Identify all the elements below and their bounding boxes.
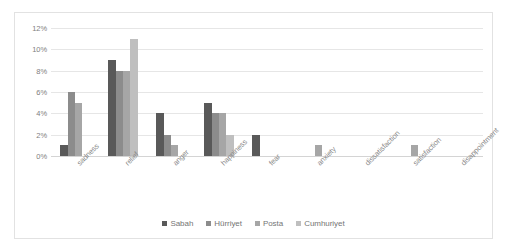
- legend-item-label: Cumhuriyet: [304, 219, 344, 228]
- bar-slot: [219, 28, 226, 156]
- bar[interactable]: [75, 103, 82, 156]
- bar-slot: [452, 28, 459, 156]
- bar-group: [252, 28, 282, 156]
- bar-slot: [178, 28, 185, 156]
- bar-slot: [75, 28, 82, 156]
- bar-slot: [260, 28, 267, 156]
- bar[interactable]: [212, 113, 219, 156]
- y-axis-tick-label: 6%: [36, 88, 47, 97]
- bar-slot: [212, 28, 219, 156]
- bar[interactable]: [219, 113, 226, 156]
- y-axis-tick-label: 12%: [32, 24, 47, 33]
- legend-item-label: Hürriyet: [214, 219, 242, 228]
- bar-group: [396, 28, 426, 156]
- legend-swatch-icon: [206, 221, 211, 226]
- bar-slot: [108, 28, 115, 156]
- bar-slot: [418, 28, 425, 156]
- y-axis-tick-label: 4%: [36, 109, 47, 118]
- chart-container: 0%2%4%6%8%10%12% sadnessreliefangerhappi…: [14, 12, 493, 239]
- bar-slot: [171, 28, 178, 156]
- bars-layer: [51, 28, 483, 156]
- bar[interactable]: [60, 145, 67, 156]
- bar-slot: [164, 28, 171, 156]
- y-axis-tick-label: 0%: [36, 152, 47, 161]
- bar[interactable]: [130, 39, 137, 156]
- bar-slot: [60, 28, 67, 156]
- bar-slot: [444, 28, 451, 156]
- bar-slot: [315, 28, 322, 156]
- bar-slot: [322, 28, 329, 156]
- bar[interactable]: [164, 135, 171, 156]
- legend-item-label: Sabah: [170, 219, 193, 228]
- bar[interactable]: [123, 71, 130, 156]
- bar-slot: [404, 28, 411, 156]
- bar[interactable]: [252, 135, 259, 156]
- bar-slot: [116, 28, 123, 156]
- bar-slot: [226, 28, 233, 156]
- bar-group: [204, 28, 234, 156]
- bar-slot: [308, 28, 315, 156]
- bar-slot: [130, 28, 137, 156]
- legend-item[interactable]: Sabah: [162, 219, 193, 228]
- bar-group: [156, 28, 186, 156]
- bar-slot: [274, 28, 281, 156]
- legend-item[interactable]: Posta: [255, 219, 283, 228]
- bar-slot: [204, 28, 211, 156]
- bar-slot: [348, 28, 355, 156]
- plot-area: 0%2%4%6%8%10%12%: [51, 28, 483, 156]
- bar-slot: [411, 28, 418, 156]
- chart-legend: SabahHürriyetPostaCumhuriyet: [15, 219, 492, 228]
- bar-slot: [459, 28, 466, 156]
- legend-item[interactable]: Hürriyet: [206, 219, 242, 228]
- bar-slot: [267, 28, 274, 156]
- bar-slot: [300, 28, 307, 156]
- legend-item-label: Posta: [263, 219, 283, 228]
- bar[interactable]: [116, 71, 123, 156]
- y-axis-tick-label: 8%: [36, 66, 47, 75]
- legend-swatch-icon: [296, 221, 301, 226]
- bar-slot: [252, 28, 259, 156]
- bar-group: [444, 28, 474, 156]
- y-axis-tick-label: 2%: [36, 130, 47, 139]
- y-axis-tick-label: 10%: [32, 45, 47, 54]
- bar[interactable]: [204, 103, 211, 156]
- bar-slot: [466, 28, 473, 156]
- bar-slot: [68, 28, 75, 156]
- bar-slot: [156, 28, 163, 156]
- bar-group: [348, 28, 378, 156]
- legend-item[interactable]: Cumhuriyet: [296, 219, 344, 228]
- bar-slot: [363, 28, 370, 156]
- bar-slot: [370, 28, 377, 156]
- bar[interactable]: [156, 113, 163, 156]
- bar-slot: [82, 28, 89, 156]
- bar-group: [108, 28, 138, 156]
- legend-swatch-icon: [162, 221, 167, 226]
- bar-group: [300, 28, 330, 156]
- x-axis-labels: sadnessreliefangerhappinessfearanxietydi…: [51, 159, 483, 215]
- bar-slot: [123, 28, 130, 156]
- bar-group: [60, 28, 90, 156]
- bar-slot: [356, 28, 363, 156]
- bar[interactable]: [108, 60, 115, 156]
- bar[interactable]: [68, 92, 75, 156]
- legend-swatch-icon: [255, 221, 260, 226]
